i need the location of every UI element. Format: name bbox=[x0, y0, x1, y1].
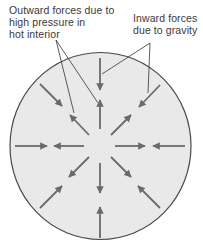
star-diagram bbox=[0, 0, 203, 250]
